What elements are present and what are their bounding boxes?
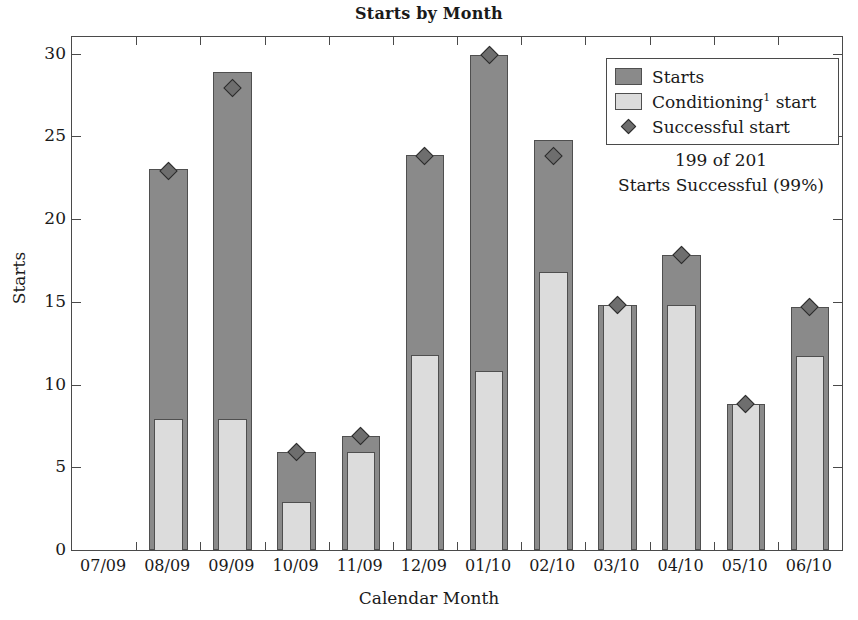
bar-conditioning-start[interactable]	[603, 305, 632, 550]
legend-label-starts: Starts	[652, 67, 704, 87]
legend-swatch-conditioning-icon	[615, 93, 642, 110]
bar-conditioning-start[interactable]	[667, 305, 696, 550]
annotation-line-1: 199 of 201	[596, 148, 846, 173]
legend-label-conditioning-text: Conditioning	[652, 92, 763, 112]
bar-conditioning-start[interactable]	[218, 419, 247, 550]
annotation-line-2: Starts Successful (99%)	[596, 173, 846, 198]
bar-conditioning-start[interactable]	[411, 355, 440, 550]
bar-conditioning-start[interactable]	[475, 371, 504, 550]
bar-conditioning-start[interactable]	[732, 404, 761, 550]
y-tick-label: 20	[26, 208, 66, 228]
bar-group[interactable]	[406, 37, 445, 550]
chart-title: Starts by Month	[0, 4, 858, 23]
bar-group[interactable]	[470, 37, 509, 550]
bar-conditioning-start[interactable]	[796, 356, 825, 550]
y-tick-label: 15	[26, 291, 66, 311]
y-tick-label: 5	[26, 456, 66, 476]
chart-legend: Starts Conditioning1 start Successful st…	[606, 58, 839, 145]
bar-conditioning-start[interactable]	[347, 452, 376, 550]
legend-diamond-successful-icon	[621, 119, 637, 135]
x-axis-tick-labels: 07/0908/0909/0910/0911/0912/0901/1002/10…	[71, 556, 843, 582]
bar-conditioning-start[interactable]	[154, 419, 183, 550]
legend-diamond-wrapper	[615, 121, 642, 132]
y-tick-label: 30	[26, 43, 66, 63]
y-tick-label: 25	[26, 125, 66, 145]
legend-swatch-starts-icon	[615, 68, 642, 85]
y-tick-label: 10	[26, 374, 66, 394]
bar-group[interactable]	[213, 37, 252, 550]
legend-label-conditioning: Conditioning1 start	[652, 91, 816, 112]
bar-conditioning-start[interactable]	[282, 502, 311, 550]
bar-group[interactable]	[277, 37, 316, 550]
bar-conditioning-start[interactable]	[539, 272, 568, 550]
legend-item-conditioning: Conditioning1 start	[615, 89, 830, 114]
success-rate-annotation: 199 of 201 Starts Successful (99%)	[596, 148, 846, 198]
legend-label-successful: Successful start	[652, 117, 790, 137]
legend-label-conditioning-suffix: start	[770, 92, 816, 112]
chart-figure: Starts by Month 051015202530 Starts 07/0…	[0, 0, 858, 620]
y-tick-label: 0	[26, 539, 66, 559]
legend-item-starts: Starts	[615, 64, 830, 89]
x-tick-label: 06/10	[769, 556, 849, 575]
bar-group[interactable]	[149, 37, 188, 550]
y-axis-title: Starts	[9, 228, 29, 328]
legend-item-successful: Successful start	[615, 114, 830, 139]
bar-group[interactable]	[342, 37, 381, 550]
bar-group[interactable]	[534, 37, 573, 550]
x-axis-title: Calendar Month	[0, 588, 858, 608]
